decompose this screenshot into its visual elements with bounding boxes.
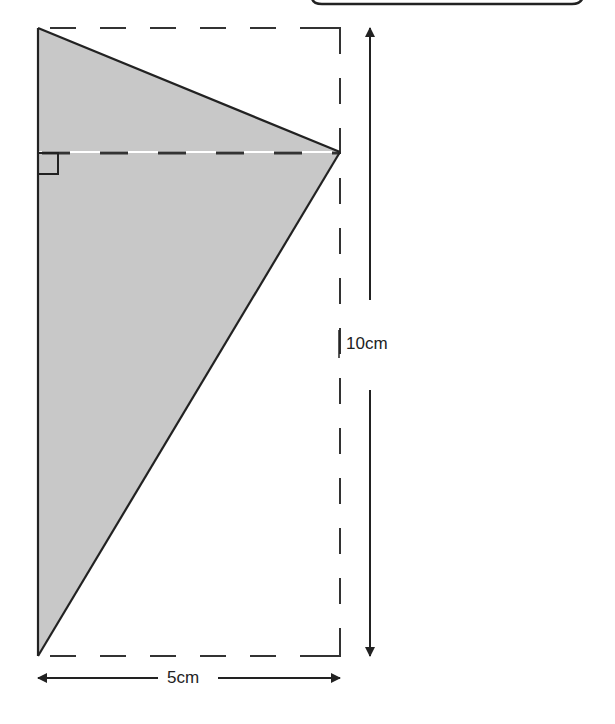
diagram-canvas: [0, 0, 615, 724]
width-label: 5cm: [167, 668, 199, 688]
answer-box-fragment: [312, 0, 583, 4]
height-label: 10cm: [346, 334, 388, 354]
shaded-triangle: [38, 28, 340, 656]
